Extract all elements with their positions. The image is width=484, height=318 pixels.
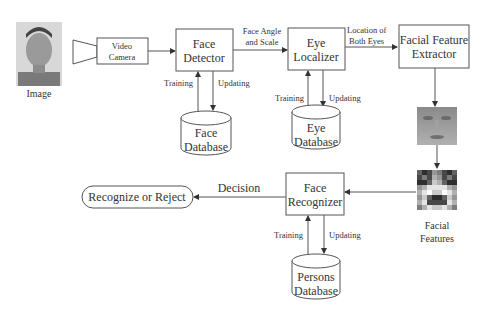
feature-pixel	[417, 195, 422, 200]
image-label: Image	[27, 88, 53, 99]
facial-features-label-line2: Features	[420, 233, 454, 244]
feature-pixel	[452, 200, 457, 205]
feature-pixel	[452, 205, 457, 210]
feature-pixel	[437, 195, 442, 200]
feature-pixel	[422, 180, 427, 185]
training-label-face-db: Training	[164, 78, 194, 88]
feature-pixel	[427, 185, 432, 190]
feature-pixel	[447, 175, 452, 180]
feature-pixel	[452, 195, 457, 200]
feature-pixel	[432, 190, 437, 195]
face-recognition-diagram: Image Video Camera Face Detector Face An…	[0, 0, 484, 318]
feature-pixel	[442, 185, 447, 190]
feature-pixel	[422, 185, 427, 190]
camera-lens-icon	[73, 40, 97, 64]
location-label-line2: Both Eyes	[349, 36, 384, 46]
facial-features-label-line1: Facial	[425, 220, 450, 231]
location-label-line1: Location of	[347, 25, 387, 35]
training-label-eye-db: Training	[275, 93, 305, 103]
feature-pixel	[442, 175, 447, 180]
feature-pixel	[447, 200, 452, 205]
feature-pixel	[427, 190, 432, 195]
feature-pixel	[447, 180, 452, 185]
eye-localizer-line1: Eye	[307, 36, 326, 50]
feature-pixel	[427, 195, 432, 200]
feature-pixel	[432, 180, 437, 185]
feature-pixel	[447, 190, 452, 195]
feature-pixel	[437, 175, 442, 180]
video-camera-line2: Camera	[109, 52, 136, 62]
input-face-photo	[16, 22, 62, 86]
feature-pixel	[422, 170, 427, 175]
feature-pixel	[447, 205, 452, 210]
eye-database-line1: Eye	[307, 121, 326, 135]
cropped-face-image	[417, 107, 457, 145]
recognize-or-reject-label: Recognize or Reject	[88, 190, 186, 204]
feature-pixel	[417, 200, 422, 205]
feature-pixel	[452, 175, 457, 180]
face-angle-label-line1: Face Angle	[243, 26, 282, 36]
feature-pixel	[417, 205, 422, 210]
feature-pixel	[432, 170, 437, 175]
feature-pixel	[427, 170, 432, 175]
persons-database-line2: Database	[294, 284, 338, 298]
feature-pixel	[427, 205, 432, 210]
feature-pixel	[417, 185, 422, 190]
feature-pixel	[417, 170, 422, 175]
feature-pixel	[437, 180, 442, 185]
feature-pixel	[442, 180, 447, 185]
feature-pixel	[442, 200, 447, 205]
feature-pixel	[432, 205, 437, 210]
feature-pixel	[422, 205, 427, 210]
feature-pixel	[452, 185, 457, 190]
face-angle-label-line2: and Scale	[246, 37, 279, 47]
eye-localizer-line2: Localizer	[293, 50, 338, 64]
feature-pixel	[442, 170, 447, 175]
feature-pixel	[417, 180, 422, 185]
persons-database-line1: Persons	[297, 270, 335, 284]
feature-pixel	[447, 170, 452, 175]
feature-pixel	[437, 200, 442, 205]
feature-pixel	[422, 175, 427, 180]
feature-pixel	[427, 200, 432, 205]
feature-pixel	[432, 195, 437, 200]
updating-label-persons-db: Updating	[329, 230, 361, 240]
face-detector-line2: Detector	[183, 51, 224, 65]
face-detector-line1: Face	[193, 37, 216, 51]
facial-features-image	[417, 170, 457, 210]
feature-pixel	[442, 190, 447, 195]
feature-pixel	[442, 205, 447, 210]
feature-pixel	[432, 175, 437, 180]
video-camera-line1: Video	[112, 41, 132, 51]
feature-pixel	[442, 195, 447, 200]
feature-pixel	[417, 190, 422, 195]
feature-pixel	[452, 180, 457, 185]
face-recognizer-line2: Recognizer	[288, 195, 343, 209]
face-recognizer-line1: Face	[304, 181, 327, 195]
feature-pixel	[422, 195, 427, 200]
feature-pixel	[422, 190, 427, 195]
training-label-persons-db: Training	[274, 230, 304, 240]
extractor-line2: Extractor	[412, 47, 457, 61]
feature-pixel	[432, 185, 437, 190]
updating-label-face-db: Updating	[218, 78, 250, 88]
feature-pixel	[452, 190, 457, 195]
feature-pixel	[447, 195, 452, 200]
extractor-line1: Facial Feature	[400, 33, 468, 47]
feature-pixel	[437, 185, 442, 190]
feature-pixel	[437, 190, 442, 195]
feature-pixel	[452, 170, 457, 175]
face-database-line1: Face	[195, 126, 218, 140]
feature-pixel	[417, 175, 422, 180]
face-database-line2: Database	[184, 140, 228, 154]
feature-pixel	[437, 205, 442, 210]
decision-label: Decision	[218, 181, 261, 195]
feature-pixel	[447, 185, 452, 190]
updating-label-eye-db: Updating	[329, 93, 361, 103]
feature-pixel	[422, 200, 427, 205]
feature-pixel	[437, 170, 442, 175]
feature-pixel	[427, 175, 432, 180]
feature-pixel	[432, 200, 437, 205]
eye-database-line2: Database	[294, 135, 338, 149]
feature-pixel	[427, 180, 432, 185]
